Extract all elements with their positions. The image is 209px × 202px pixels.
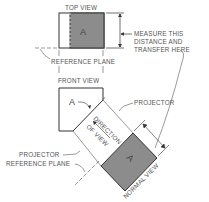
top-view-label: TOP VIEW: [65, 4, 97, 11]
top-view-dimension: [106, 13, 132, 48]
measure-text-line3: TRANSFER HERE: [134, 46, 190, 53]
reference-plane-upper-label: REFERENCE PLANE: [51, 58, 115, 65]
reference-plane-lower-line: [75, 160, 100, 185]
measure-text-line1: MEASURE THIS: [134, 30, 184, 37]
reference-plane-lower-label: REFERENCE PLANE: [6, 160, 70, 167]
reference-plane-lower-leader: [75, 164, 85, 172]
projector-lower-leader: [63, 151, 80, 155]
top-view: A: [59, 13, 104, 48]
auxiliary-view-diagram: TOP VIEW A MEASURE THIS DISTANCE AND TRA…: [0, 0, 209, 202]
top-view-surface-label: A: [80, 27, 86, 37]
projector-lower-label: PROJECTOR: [19, 151, 60, 158]
front-view-surface-label: A: [69, 97, 75, 107]
projector-upper-label: PROJECTOR: [134, 99, 175, 106]
front-view-label: FRONT VIEW: [58, 77, 99, 84]
measure-text-line2: DISTANCE AND: [134, 38, 183, 45]
projector-upper-leader: [119, 103, 133, 111]
direction-of-view: DIRECTION OF VIEW: [85, 115, 123, 148]
